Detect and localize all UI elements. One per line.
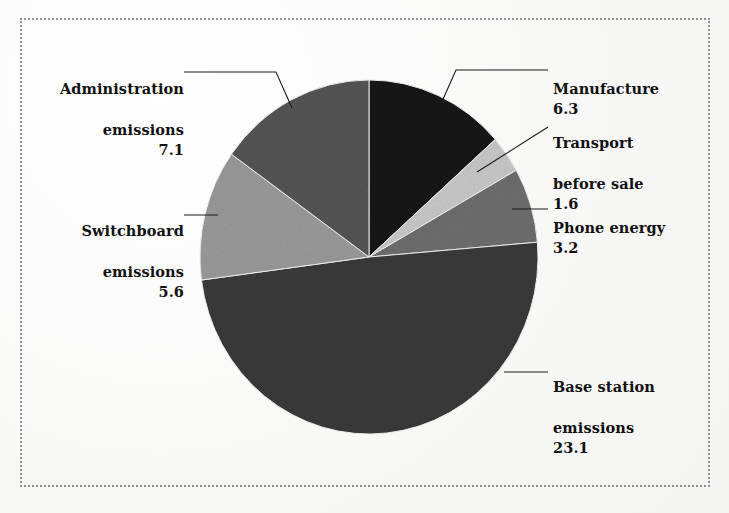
slice-label-manufacture-line1: Manufacture [553, 80, 659, 97]
slice-label-base-station-line1: Base station [553, 378, 655, 395]
slice-label-administration-emissions: Administration emissions 7.1 [36, 58, 184, 181]
slice-value-switchboard: 5.6 [36, 282, 184, 303]
slice-value-base-station: 23.1 [553, 438, 723, 459]
slice-label-transport-line2: before sale [553, 175, 644, 192]
slice-label-phone-line1: Phone energy [553, 219, 665, 236]
slice-label-base-station-line2: emissions [553, 419, 634, 436]
slice-label-administration-line2: emissions [103, 121, 184, 138]
slice-label-transport-line1: Transport [553, 134, 634, 151]
slice-label-switchboard-line2: emissions [103, 263, 184, 280]
slice-label-switchboard-line1: Switchboard [81, 222, 184, 239]
slice-label-administration-line1: Administration [60, 80, 184, 97]
pie-chart-figure: Administration emissions 7.1 Switchboard… [0, 0, 729, 513]
leader-line-administration [184, 72, 292, 108]
leader-line-manufacture [440, 70, 548, 106]
slice-value-administration: 7.1 [36, 140, 184, 161]
slice-value-phone-energy: 3.2 [553, 238, 723, 259]
slice-label-phone-energy: Phone energy 3.2 [553, 197, 723, 279]
slice-label-base-station-emissions: Base station emissions 23.1 [553, 356, 723, 479]
pie-slices-group [200, 80, 538, 434]
slice-label-switchboard-emissions: Switchboard emissions 5.6 [36, 200, 184, 323]
